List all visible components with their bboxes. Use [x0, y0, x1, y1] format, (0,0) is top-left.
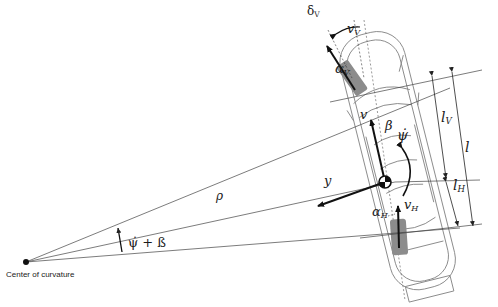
label-l-total: l: [465, 140, 469, 154]
label-v-cg: v: [360, 108, 367, 121]
label-l-front: lV: [441, 110, 452, 126]
label-l-rear: lH: [453, 178, 465, 194]
label-v-rear: vH: [404, 198, 418, 213]
label-alpha-rear: αH: [372, 205, 388, 220]
center-of-curvature-point: [23, 259, 29, 265]
center-of-gravity-icon: [379, 176, 391, 188]
car-centerline: [364, 20, 405, 300]
label-y-axis: y: [324, 174, 331, 187]
center-of-curvature-caption: Center of curvature: [6, 270, 74, 279]
yaw-rate-arc: [402, 148, 410, 196]
label-alpha-front: αV: [335, 62, 350, 77]
label-beta: β: [385, 119, 393, 132]
psi-beta-arrow: [118, 228, 122, 252]
label-v-front: vV: [347, 22, 360, 37]
label-psi-plus-beta: ψ̇ + ß: [128, 236, 166, 249]
diagram-canvas: [0, 0, 498, 307]
label-delta-v: δV: [307, 5, 320, 18]
vehicle-dynamics-diagram: δV vV αV v β ψ̇ y ρ vH αH lV l lH ψ̇ + ß…: [0, 0, 498, 307]
label-rho: ρ: [216, 190, 223, 202]
v-rear-vector: [398, 206, 399, 248]
label-yaw-rate: ψ̇: [397, 128, 408, 142]
